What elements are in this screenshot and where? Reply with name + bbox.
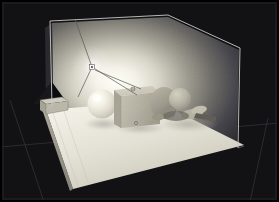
cube-front-face	[114, 90, 121, 128]
render-viewport[interactable]	[0, 0, 279, 202]
figure-foot	[152, 114, 164, 121]
scene-canvas[interactable]	[0, 0, 279, 202]
sphere-highlight	[92, 94, 102, 102]
light-marker-core	[91, 66, 93, 68]
figure-head	[169, 88, 191, 110]
anchor-point-icon-core	[132, 88, 133, 89]
figure-underside-shadow	[163, 111, 189, 121]
sphere[interactable]	[88, 90, 117, 119]
